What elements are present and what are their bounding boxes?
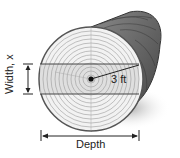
center-point bbox=[88, 76, 93, 81]
log-diagram bbox=[0, 0, 180, 158]
width-label: Width, x bbox=[4, 54, 15, 94]
depth-label: Depth bbox=[76, 139, 105, 150]
radius-label: 3 ft bbox=[111, 74, 126, 85]
width-dimension-arrow bbox=[23, 64, 33, 94]
